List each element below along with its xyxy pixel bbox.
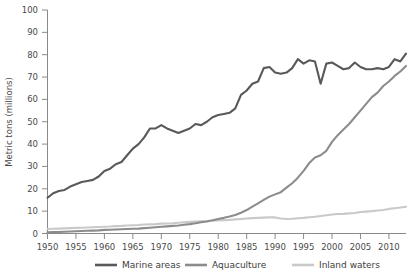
x-tick-label: 1975 <box>179 242 201 252</box>
y-tick-label: 60 <box>27 94 38 104</box>
y-tick-label: 50 <box>27 117 38 127</box>
chart-canvas: 0102030405060708090100 19501955196019651… <box>0 0 414 280</box>
x-tick-label: 1995 <box>293 242 315 252</box>
x-tick-label: 2000 <box>321 242 343 252</box>
x-tick-group: 1950195519601965197019751980198519901995… <box>37 234 400 253</box>
x-tick-label: 2005 <box>350 242 372 252</box>
y-axis-title: Metric tons (millions) <box>4 77 14 167</box>
y-tick-label: 100 <box>22 5 38 15</box>
legend-label: Inland waters <box>319 260 380 270</box>
x-tick-label: 1965 <box>122 242 144 252</box>
x-tick-label: 1970 <box>150 242 172 252</box>
x-tick-label: 1955 <box>65 242 87 252</box>
y-tick-label: 80 <box>27 50 38 60</box>
series-group <box>48 54 407 233</box>
y-tick-label: 20 <box>27 184 38 194</box>
y-tick-label: 40 <box>27 139 38 149</box>
x-axis: 1950195519601965197019751980198519901995… <box>37 234 406 253</box>
x-tick-label: 1990 <box>264 242 286 252</box>
x-tick-label: 1950 <box>37 242 59 252</box>
x-tick-label: 1980 <box>207 242 229 252</box>
x-tick-label: 2010 <box>378 242 400 252</box>
legend-label: Aquaculture <box>212 260 267 270</box>
y-tick-label: 0 <box>33 229 38 239</box>
y-tick-label: 10 <box>27 206 38 216</box>
y-axis: 0102030405060708090100 <box>22 5 48 239</box>
x-tick-label: 1960 <box>94 242 116 252</box>
y-tick-label: 30 <box>27 161 38 171</box>
y-tick-label: 90 <box>27 27 38 37</box>
x-tick-label: 1985 <box>236 242 258 252</box>
y-tick-group: 0102030405060708090100 <box>22 5 48 239</box>
legend-label: Marine areas <box>122 260 181 270</box>
y-tick-label: 70 <box>27 72 38 82</box>
chart-svg: 0102030405060708090100 19501955196019651… <box>0 0 414 280</box>
series-line-marine-areas <box>48 54 407 198</box>
fisheries-production-chart: 0102030405060708090100 19501955196019651… <box>0 0 414 280</box>
chart-legend: Marine areasAquacultureInland waters <box>95 260 380 270</box>
series-line-aquaculture <box>48 66 407 233</box>
